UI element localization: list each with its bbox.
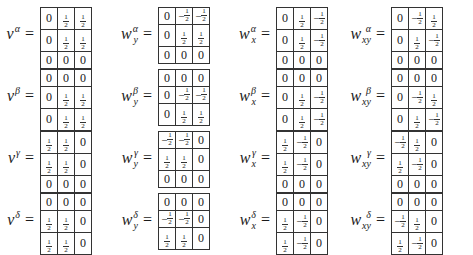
cell-value: 0 <box>431 195 437 209</box>
fraction: −12 <box>195 87 207 102</box>
matrix-cell: −12 <box>294 233 311 255</box>
cell-value: 0 <box>316 236 322 250</box>
cell-value: 0 <box>316 157 322 171</box>
equals-sign: = <box>25 87 34 105</box>
matrix-cell: 0 <box>176 194 193 211</box>
matrix-label: wαx= <box>239 24 274 44</box>
cell-value: 0 <box>431 53 437 67</box>
matrix-cell: 0 <box>277 109 294 131</box>
matrix-cell: 0 <box>75 211 92 233</box>
fraction: −12 <box>411 11 423 26</box>
matrix-cell: 0 <box>426 132 443 154</box>
matrix-cell: 12 <box>193 104 210 126</box>
symbol-base: w <box>239 25 250 43</box>
cell-value: 0 <box>282 90 288 104</box>
matrix-grid: 0000−12−1201212 <box>158 69 210 126</box>
matrix-row: 0−1212 <box>392 87 443 109</box>
fraction: 12 <box>164 155 170 170</box>
fraction: 12 <box>63 239 69 254</box>
matrix-row: 12120 <box>41 132 92 154</box>
cell-value: 0 <box>431 135 437 149</box>
symbol-subscript <box>15 97 20 106</box>
symbol-superscript: α <box>15 24 20 35</box>
matrix-cell: 0 <box>193 47 210 64</box>
matrix-cell: 0 <box>41 109 58 131</box>
cell-value: 0 <box>431 177 437 191</box>
matrix-row: 12−120 <box>392 233 443 255</box>
matrix-row: 12120 <box>159 149 210 171</box>
cell-value: 0 <box>46 195 52 209</box>
fraction: 12 <box>63 160 69 175</box>
matrix-row: −12120 <box>392 211 443 233</box>
matrix-cell: −12 <box>294 132 311 154</box>
matrix-grid: 0−1212012−12000 <box>391 7 443 69</box>
fraction: 12 <box>181 31 187 46</box>
matrix-cell: 12 <box>294 30 311 52</box>
matrix-row: 000 <box>159 171 210 188</box>
cell-value: 0 <box>80 214 86 228</box>
cell-value: 0 <box>198 212 204 226</box>
matrix-cell: 12 <box>193 25 210 47</box>
equals-sign: = <box>376 211 385 229</box>
fraction: 12 <box>181 110 187 125</box>
cell-value: 0 <box>299 177 305 191</box>
equals-sign: = <box>261 25 270 43</box>
matrix-cell: 0 <box>277 52 294 69</box>
matrix-cell: −12 <box>193 8 210 25</box>
equals-sign: = <box>143 25 152 43</box>
fraction: 12 <box>181 155 187 170</box>
symbol-subscript: x <box>251 35 256 44</box>
cell-value: 0 <box>46 177 52 191</box>
matrix-cell: 12 <box>409 109 426 131</box>
matrix-cell: 0 <box>311 132 328 154</box>
cell-value: 0 <box>80 236 86 250</box>
matrix-cell: 12 <box>409 211 426 233</box>
fraction: 12 <box>299 36 305 51</box>
cell-value: 0 <box>80 157 86 171</box>
matrix-cell: −12 <box>311 109 328 131</box>
matrix-cell: 0 <box>392 87 409 109</box>
matrix-cell: 12 <box>159 228 176 250</box>
fraction: 12 <box>63 14 69 29</box>
symbol-base: w <box>121 87 132 105</box>
matrix-row: 12−120 <box>277 211 328 233</box>
cell-value: 0 <box>63 53 69 67</box>
fraction: 12 <box>46 239 52 254</box>
cell-value: 0 <box>397 195 403 209</box>
matrix-cell: 0 <box>311 52 328 69</box>
fraction: −12 <box>411 236 423 251</box>
cell-value: 0 <box>397 53 403 67</box>
matrix-cell: −12 <box>176 132 193 149</box>
cell-value: 0 <box>46 90 52 104</box>
matrix-row: 012−12 <box>392 30 443 52</box>
matrix-row: 0−12−12 <box>159 87 210 104</box>
cell-value: 0 <box>164 9 170 23</box>
fraction: 12 <box>414 36 420 51</box>
matrix-cell: 12 <box>176 149 193 171</box>
matrix-grid: −1212012−120000 <box>391 131 443 193</box>
matrix-row: 000 <box>41 70 92 87</box>
matrix-label: vβ= <box>7 86 38 106</box>
matrix-cell: 0 <box>426 154 443 176</box>
fraction: 12 <box>80 14 86 29</box>
symbol-superscript: γ <box>16 148 20 159</box>
matrix-row: 000 <box>41 176 92 193</box>
matrix-cell: 0 <box>311 154 328 176</box>
symbol-base: w <box>122 149 133 167</box>
cell-value: 0 <box>80 71 86 85</box>
matrix-label: vα= <box>7 24 38 44</box>
matrix-cell: 0 <box>159 104 176 126</box>
fraction: −12 <box>296 157 308 172</box>
fraction: −12 <box>394 135 406 150</box>
matrix-cell: −12 <box>426 30 443 52</box>
symbol-superscript: β <box>15 86 20 97</box>
matrix-cell: 12 <box>392 154 409 176</box>
matrix-cell: 0 <box>176 47 193 64</box>
matrix-cell: 0 <box>311 194 328 211</box>
symbol-subscript: xy <box>362 221 371 230</box>
fraction: −12 <box>313 33 325 48</box>
fraction: −12 <box>296 214 308 229</box>
matrix-cell: 12 <box>426 87 443 109</box>
matrix-cell: 0 <box>41 70 58 87</box>
matrix-cell: 0 <box>75 233 92 255</box>
